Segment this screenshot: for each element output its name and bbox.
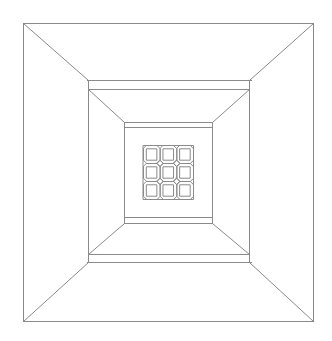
grid-inner-square bbox=[180, 167, 190, 178]
perspective-drawing bbox=[0, 0, 332, 341]
frame-lines bbox=[24, 24, 314, 322]
diagonal-outer-bottom-right bbox=[250, 263, 314, 322]
grid-octagon-tile bbox=[177, 182, 194, 200]
diagonal-inner-bottom-right bbox=[213, 224, 250, 255]
perspective-corridor-diagram bbox=[0, 0, 332, 341]
grid-octagon-tile bbox=[160, 146, 177, 164]
grid-octagon-tile bbox=[144, 164, 161, 182]
diagonal-inner-bottom-left bbox=[89, 224, 125, 255]
tile-grid bbox=[144, 146, 194, 200]
grid-inner-square bbox=[147, 185, 157, 196]
grid-border bbox=[144, 146, 194, 200]
grid-inner-square bbox=[180, 149, 190, 160]
grid-octagon-tile bbox=[160, 182, 177, 200]
grid-diamond bbox=[157, 160, 163, 166]
grid-inner-square bbox=[180, 185, 190, 196]
diagonal-inner-top-right bbox=[213, 90, 250, 123]
grid-octagon-tile bbox=[144, 182, 161, 200]
grid-octagon-tile bbox=[177, 164, 194, 182]
grid-diamond bbox=[174, 178, 180, 184]
grid-diamond bbox=[174, 160, 180, 166]
grid-inner-square bbox=[147, 167, 157, 178]
grid-inner-square bbox=[147, 149, 157, 160]
grid-octagon-tile bbox=[144, 146, 161, 164]
grid-inner-square bbox=[163, 185, 173, 196]
diagonal-outer-top-left bbox=[24, 24, 89, 81]
grid-inner-square bbox=[163, 149, 173, 160]
grid-inner-square bbox=[163, 167, 173, 178]
grid-octagon-tile bbox=[160, 164, 177, 182]
diagonal-inner-top-left bbox=[89, 90, 125, 123]
diagonal-outer-top-right bbox=[250, 24, 314, 81]
diagonal-outer-bottom-left bbox=[24, 263, 89, 322]
grid-diamond bbox=[157, 178, 163, 184]
grid-octagon-tile bbox=[177, 146, 194, 164]
